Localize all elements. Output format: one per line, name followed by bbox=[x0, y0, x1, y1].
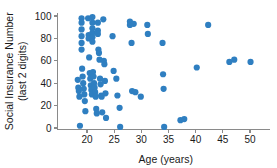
x-axis-title: Age (years) bbox=[139, 153, 193, 165]
x-tick-label: 50 bbox=[244, 134, 256, 145]
data-point bbox=[111, 68, 117, 74]
data-point bbox=[101, 61, 107, 67]
data-point bbox=[103, 115, 109, 121]
y-tick-label: 60 bbox=[40, 55, 52, 66]
data-point bbox=[78, 47, 84, 53]
data-point bbox=[99, 109, 105, 115]
x-tick-label: 25 bbox=[109, 134, 121, 145]
data-point bbox=[102, 78, 108, 84]
data-point bbox=[109, 33, 115, 39]
data-point bbox=[80, 80, 86, 86]
y-tick-label: 40 bbox=[40, 78, 52, 89]
x-tick-label: 45 bbox=[217, 134, 229, 145]
data-point bbox=[161, 124, 167, 130]
y-axis-title-line2: (last 2 digits) bbox=[16, 41, 28, 101]
scatter-plot-figure: 02040608010020253035404550Age (years)Soc… bbox=[0, 0, 277, 168]
data-point bbox=[132, 89, 138, 95]
data-point bbox=[128, 40, 134, 46]
data-point bbox=[145, 31, 151, 37]
data-point bbox=[82, 98, 88, 104]
data-point bbox=[117, 105, 123, 111]
data-point bbox=[78, 40, 84, 46]
chart-canvas: 02040608010020253035404550Age (years)Soc… bbox=[0, 0, 277, 168]
data-point bbox=[95, 20, 101, 26]
y-tick-label: 100 bbox=[35, 11, 52, 22]
y-axis-title-line1: Social Insurance Number bbox=[3, 12, 15, 130]
data-point bbox=[78, 26, 84, 32]
x-tick-label: 40 bbox=[190, 134, 202, 145]
data-point bbox=[80, 73, 86, 79]
data-point bbox=[194, 64, 200, 70]
data-point bbox=[117, 124, 123, 130]
data-point bbox=[81, 91, 87, 97]
x-tick-label: 20 bbox=[81, 134, 93, 145]
data-point bbox=[89, 20, 95, 26]
x-tick-label: 30 bbox=[136, 134, 148, 145]
x-tick-label: 35 bbox=[163, 134, 175, 145]
data-point bbox=[247, 59, 253, 65]
data-point bbox=[181, 116, 187, 122]
data-point bbox=[95, 31, 101, 37]
data-point bbox=[81, 86, 87, 92]
data-point bbox=[86, 54, 92, 60]
data-point bbox=[144, 22, 150, 28]
data-point bbox=[161, 86, 167, 92]
data-point bbox=[138, 94, 144, 100]
data-point bbox=[160, 71, 166, 77]
data-point bbox=[79, 66, 85, 72]
data-point-group bbox=[75, 14, 254, 130]
data-point bbox=[89, 39, 95, 45]
data-point bbox=[78, 20, 84, 26]
data-point bbox=[89, 14, 95, 20]
data-point bbox=[231, 57, 237, 63]
data-point bbox=[78, 33, 84, 39]
data-point bbox=[205, 22, 211, 28]
y-tick-label: 80 bbox=[40, 33, 52, 44]
data-point bbox=[93, 94, 99, 100]
data-point bbox=[94, 110, 100, 116]
data-point bbox=[113, 76, 119, 82]
data-point bbox=[131, 21, 137, 27]
data-point bbox=[114, 92, 120, 98]
data-point bbox=[159, 40, 165, 46]
data-point bbox=[96, 50, 102, 56]
y-tick-label: 0 bbox=[46, 123, 52, 134]
data-point bbox=[100, 16, 106, 22]
y-tick-label: 20 bbox=[40, 100, 52, 111]
data-point bbox=[90, 73, 96, 79]
data-point bbox=[82, 108, 88, 114]
data-point bbox=[102, 90, 108, 96]
data-point bbox=[77, 123, 83, 129]
